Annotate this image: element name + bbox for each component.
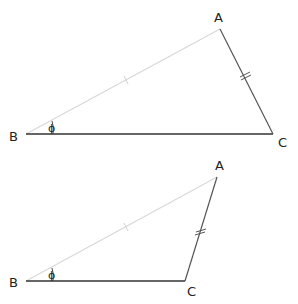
triangle-diagrams: ϕ A B C ϕ A B C <box>0 0 298 304</box>
vertex-label-a: A <box>215 158 224 173</box>
vertex-label-c: C <box>187 284 196 299</box>
side-ac <box>220 29 273 134</box>
triangle-1: ϕ A B C <box>9 10 287 150</box>
triangle-2: ϕ A B C <box>9 158 224 299</box>
vertex-label-b: B <box>9 129 18 144</box>
vertex-label-a: A <box>214 10 223 25</box>
side-ac <box>185 177 217 281</box>
vertex-label-b: B <box>9 275 18 290</box>
vertex-label-c: C <box>278 135 287 150</box>
side-ab <box>26 177 217 281</box>
angle-phi-label: ϕ <box>48 269 55 282</box>
angle-phi-label: ϕ <box>48 122 55 135</box>
side-ab <box>26 29 220 134</box>
